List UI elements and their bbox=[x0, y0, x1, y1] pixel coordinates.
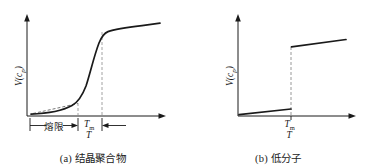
y-axis-b bbox=[235, 14, 241, 116]
melt-range-arrow-a bbox=[72, 123, 79, 128]
solid-branch-curve-b bbox=[239, 109, 291, 115]
melting-range-label-a: 熔限 bbox=[44, 119, 64, 133]
y-axis-a bbox=[24, 14, 30, 116]
chart-panel-a: V(cp) 熔限 Tm T (a) 结晶聚合物 bbox=[0, 0, 186, 168]
x-axis-label-b: T bbox=[287, 130, 292, 140]
caption-a: (a) 结晶聚合物 bbox=[0, 150, 186, 165]
y-axis-label-a: V(cp) bbox=[14, 66, 27, 86]
tm-arrow-left-a bbox=[102, 123, 109, 128]
x-axis-b bbox=[238, 113, 356, 119]
chart-panel-b: V(cp) Tm T (b) 低分子 bbox=[186, 0, 371, 168]
y-axis-label-b: V(cp) bbox=[225, 66, 238, 86]
crystalline-polymer-curve bbox=[31, 23, 160, 114]
x-axis-a bbox=[27, 113, 166, 119]
x-axis-label-a: T bbox=[86, 130, 91, 140]
chart-b-svg bbox=[186, 0, 371, 145]
liquid-branch-curve-b bbox=[291, 40, 346, 47]
figure-container: V(cp) 熔限 Tm T (a) 结晶聚合物 bbox=[0, 0, 371, 168]
caption-b: (b) 低分子 bbox=[186, 150, 371, 165]
